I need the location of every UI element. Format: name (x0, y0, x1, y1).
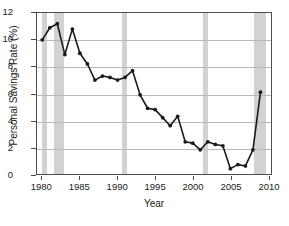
x-tick-mark-1995 (155, 176, 156, 180)
y-tick-label-4: 4 (0, 116, 13, 126)
data-point-1994 (146, 106, 150, 110)
x-tick-label-1980: 1980 (21, 182, 61, 192)
x-tick-mark-2005 (231, 176, 232, 180)
data-point-1991 (123, 76, 127, 80)
x-axis-title: Year (36, 198, 272, 209)
data-point-1989 (108, 76, 112, 80)
y-tick-label-12: 12 (0, 7, 13, 17)
y-tick-mark-0 (31, 175, 36, 176)
data-point-2003 (213, 143, 217, 147)
series-line (42, 24, 260, 169)
y-tick-label-0: 0 (0, 170, 13, 180)
data-point-1997 (168, 124, 172, 128)
data-point-1984 (70, 27, 74, 31)
plot-area (36, 12, 272, 175)
data-point-2009 (259, 90, 263, 94)
x-tick-mark-2010 (269, 176, 270, 180)
y-tick-label-6: 6 (0, 89, 13, 99)
x-tick-label-2010: 2010 (249, 182, 289, 192)
data-point-2007 (244, 164, 248, 168)
series-points (40, 22, 262, 171)
savings-rate-series (37, 13, 271, 174)
data-point-1992 (131, 69, 135, 73)
data-point-1987 (93, 78, 97, 82)
data-point-1985 (78, 51, 82, 55)
x-tick-label-1990: 1990 (97, 182, 137, 192)
data-point-1999 (183, 140, 187, 144)
data-point-1982 (55, 22, 59, 26)
data-point-2004 (221, 144, 225, 148)
data-point-1988 (101, 74, 105, 78)
data-point-1995 (153, 108, 157, 112)
data-point-1980 (40, 38, 44, 42)
data-point-1993 (138, 93, 142, 97)
data-point-2000 (191, 141, 195, 145)
x-tick-label-2000: 2000 (173, 182, 213, 192)
data-point-1983 (63, 53, 67, 57)
x-tick-mark-1990 (117, 176, 118, 180)
x-tick-mark-1980 (41, 176, 42, 180)
data-point-1996 (161, 116, 165, 120)
data-point-2005 (228, 167, 232, 171)
data-point-1986 (86, 62, 90, 66)
x-tick-mark-2000 (193, 176, 194, 180)
data-point-2008 (251, 148, 255, 152)
x-tick-label-2005: 2005 (211, 182, 251, 192)
x-tick-mark-1985 (79, 176, 80, 180)
x-tick-label-1985: 1985 (59, 182, 99, 192)
data-point-1990 (116, 78, 120, 82)
data-point-2001 (198, 148, 202, 152)
y-tick-label-8: 8 (0, 61, 13, 71)
data-point-2002 (206, 140, 210, 144)
y-tick-label-2: 2 (0, 143, 13, 153)
y-tick-label-10: 10 (0, 34, 13, 44)
personal-savings-rate-chart: Personal Savings Rate (%) Year 024681012… (0, 0, 289, 226)
data-point-1998 (176, 114, 180, 118)
x-tick-label-1995: 1995 (135, 182, 175, 192)
data-point-2006 (236, 163, 240, 167)
data-point-1981 (48, 26, 52, 30)
